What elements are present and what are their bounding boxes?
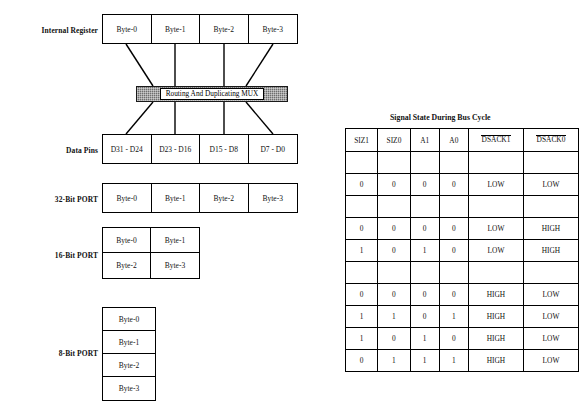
table-cell-a1: 0 — [410, 284, 439, 306]
internal-register-label: Internal Register — [14, 26, 98, 35]
table-row: 0000HIGHLOW — [346, 284, 579, 306]
table-cell-siz0: 0 — [378, 218, 410, 240]
table-cell-siz0: 1 — [378, 350, 410, 372]
header-dsack1-text: DSACK1 — [481, 135, 512, 145]
data-pins-row: D31 - D24 D23 - D16 D15 - D8 D7 - D0 — [102, 134, 298, 164]
data-pins-d7-d0: D7 - D0 — [249, 135, 298, 163]
header-dsack0-text: DSACK0 — [536, 135, 567, 145]
table-cell-empty — [523, 196, 578, 218]
table-cell-empty — [346, 152, 378, 174]
header-a0: A0 — [439, 129, 468, 152]
port-32bit-byte-1: Byte-1 — [152, 184, 201, 212]
table-cell-siz0: 0 — [378, 328, 410, 350]
table-cell-a1: 0 — [410, 174, 439, 196]
table-cell-dsack0: LOW — [523, 328, 578, 350]
table-cell-a0: 0 — [439, 328, 468, 350]
internal-register-byte-2: Byte-2 — [200, 15, 249, 43]
table-cell-a0: 0 — [439, 240, 468, 262]
table-cell-empty — [378, 262, 410, 284]
table-cell-a0: 0 — [439, 174, 468, 196]
internal-register-byte-3: Byte-3 — [249, 15, 298, 43]
signal-table-body: 0000LOWLOW0000LOWHIGH1010LOWHIGH0000HIGH… — [346, 152, 579, 372]
port-32bit-byte-0: Byte-0 — [103, 184, 152, 212]
header-siz0-text: SIZ0 — [387, 136, 402, 145]
data-pins-label: Data Pins — [14, 146, 98, 155]
table-cell-empty — [410, 196, 439, 218]
signal-state-table-wrap: SIZ1 SIZ0 A1 A0 DSACK1 DSACK0 0000LOWLOW… — [345, 128, 579, 372]
table-cell-empty — [523, 262, 578, 284]
port-32bit-row: Byte-0 Byte-1 Byte-2 Byte-3 — [102, 183, 298, 213]
port-8bit-label: 8-Bit PORT — [14, 349, 98, 358]
table-cell-a1: 1 — [410, 350, 439, 372]
table-cell-a1: 0 — [410, 218, 439, 240]
header-a0-text: A0 — [449, 136, 458, 145]
data-pins-d15-d8: D15 - D8 — [200, 135, 249, 163]
connector-reg-byte3 — [246, 44, 273, 86]
table-cell-dsack1: LOW — [468, 174, 523, 196]
table-cell-empty — [468, 262, 523, 284]
table-row: 1010LOWHIGH — [346, 240, 579, 262]
table-cell-empty — [410, 262, 439, 284]
table-spacer-row — [346, 152, 579, 174]
table-cell-dsack0: LOW — [523, 350, 578, 372]
data-pins-d31-d24: D31 - D24 — [103, 135, 152, 163]
table-row: 1010HIGHLOW — [346, 328, 579, 350]
table-cell-siz1: 1 — [346, 306, 378, 328]
header-dsack0: DSACK0 — [523, 129, 578, 152]
table-cell-dsack0: LOW — [523, 284, 578, 306]
table-cell-dsack1: HIGH — [468, 306, 523, 328]
table-cell-empty — [523, 152, 578, 174]
table-cell-dsack1: HIGH — [468, 328, 523, 350]
table-cell-dsack1: LOW — [468, 240, 523, 262]
table-cell-siz0: 1 — [378, 306, 410, 328]
table-cell-siz1: 0 — [346, 218, 378, 240]
table-cell-empty — [468, 196, 523, 218]
header-siz1-text: SIZ1 — [354, 136, 369, 145]
table-cell-siz0: 0 — [378, 174, 410, 196]
table-cell-a1: 1 — [410, 328, 439, 350]
port-8bit-byte-2: Byte-2 — [103, 354, 155, 377]
header-a1: A1 — [410, 129, 439, 152]
header-dsack1: DSACK1 — [468, 129, 523, 152]
connector-mux-d7 — [246, 102, 273, 134]
table-cell-siz1: 1 — [346, 328, 378, 350]
table-cell-empty — [439, 262, 468, 284]
port-32bit-byte-2: Byte-2 — [200, 184, 249, 212]
table-cell-empty — [378, 196, 410, 218]
port-16bit-grid: Byte-0 Byte-1 Byte-2 Byte-3 — [102, 227, 200, 279]
header-a1-text: A1 — [420, 136, 429, 145]
table-cell-empty — [410, 152, 439, 174]
port-8bit-byte-3: Byte-3 — [103, 377, 155, 400]
connector-mux-d31 — [126, 102, 153, 134]
port-32bit-label: 32-Bit PORT — [14, 195, 98, 204]
table-cell-empty — [378, 152, 410, 174]
table-cell-empty — [439, 152, 468, 174]
table-header-row: SIZ1 SIZ0 A1 A0 DSACK1 DSACK0 — [346, 129, 579, 152]
table-cell-dsack1: HIGH — [468, 350, 523, 372]
internal-register-byte-1: Byte-1 — [152, 15, 201, 43]
table-row: 1101HIGHLOW — [346, 306, 579, 328]
header-siz1: SIZ1 — [346, 129, 378, 152]
mux-label: Routing And Duplicating MUX — [160, 88, 265, 100]
table-spacer-row — [346, 262, 579, 284]
table-cell-empty — [468, 152, 523, 174]
table-cell-dsack1: HIGH — [468, 284, 523, 306]
table-cell-siz1: 0 — [346, 174, 378, 196]
table-cell-dsack0: HIGH — [523, 240, 578, 262]
port-16bit-byte-1: Byte-1 — [151, 228, 199, 253]
internal-register-row: Byte-0 Byte-1 Byte-2 Byte-3 — [102, 14, 298, 44]
port-16bit-byte-3: Byte-3 — [151, 253, 199, 278]
table-cell-siz0: 0 — [378, 240, 410, 262]
signal-state-table: SIZ1 SIZ0 A1 A0 DSACK1 DSACK0 0000LOWLOW… — [345, 128, 579, 372]
table-cell-a0: 0 — [439, 284, 468, 306]
connector-reg-byte0 — [126, 44, 153, 86]
table-cell-empty — [346, 262, 378, 284]
port-8bit-byte-0: Byte-0 — [103, 308, 155, 331]
table-cell-dsack1: LOW — [468, 218, 523, 240]
data-pins-d23-d16: D23 - D16 — [152, 135, 201, 163]
table-cell-dsack0: LOW — [523, 174, 578, 196]
signal-table-caption: Signal State During Bus Cycle — [390, 113, 491, 122]
table-cell-a1: 0 — [410, 306, 439, 328]
table-spacer-row — [346, 196, 579, 218]
table-cell-a1: 1 — [410, 240, 439, 262]
